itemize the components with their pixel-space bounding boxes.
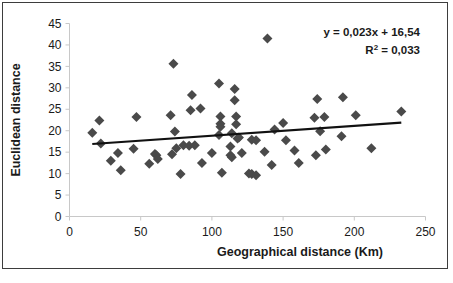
data-point-marker — [294, 158, 304, 168]
data-point-marker — [230, 95, 240, 105]
y-tick-label: 45 — [48, 17, 62, 31]
y-tick-label: 10 — [48, 167, 62, 181]
data-point-marker — [144, 159, 154, 169]
y-tick-label: 20 — [48, 124, 62, 138]
data-point-marker — [116, 165, 126, 175]
data-point-marker — [190, 140, 200, 150]
x-tick-label: 200 — [344, 225, 364, 239]
data-point-marker — [113, 148, 123, 158]
data-point-marker — [396, 106, 406, 116]
data-point-marker — [312, 94, 322, 104]
data-point-marker — [278, 118, 288, 128]
data-point-marker — [262, 34, 272, 44]
r-squared-label: R2 = 0,033 — [365, 43, 420, 56]
data-points-group — [87, 34, 406, 181]
data-point-marker — [106, 156, 116, 166]
data-point-marker — [129, 144, 139, 154]
data-point-marker — [351, 110, 361, 120]
data-point-marker — [197, 158, 207, 168]
data-point-marker — [196, 103, 206, 113]
x-tick-label: 250 — [415, 225, 435, 239]
data-point-marker — [289, 145, 299, 155]
data-point-marker — [338, 92, 348, 102]
y-tick-label: 30 — [48, 81, 62, 95]
data-point-marker — [207, 148, 217, 158]
y-tick-label: 35 — [48, 60, 62, 74]
y-tick-label: 25 — [48, 102, 62, 116]
data-point-marker — [319, 112, 329, 122]
y-tick-label: 5 — [55, 188, 62, 202]
data-point-marker — [131, 112, 141, 122]
data-point-marker — [281, 135, 291, 145]
data-point-marker — [214, 79, 224, 89]
regression-equation-label: y = 0,023x + 16,54 — [323, 26, 420, 38]
y-tick-label: 40 — [48, 38, 62, 52]
data-point-marker — [231, 119, 241, 129]
data-point-marker — [176, 169, 186, 179]
data-point-marker — [321, 145, 331, 155]
data-point-marker — [366, 143, 376, 153]
scatter-chart: 051015202530354045050100150200250Euclide… — [0, 0, 453, 283]
x-axis-title: Geographical distance (Km) — [217, 245, 383, 259]
data-point-marker — [270, 124, 280, 134]
y-tick-label: 15 — [48, 145, 62, 159]
trendline — [92, 123, 401, 144]
r-squared-value: = 0,033 — [378, 44, 420, 56]
data-point-marker — [230, 84, 240, 94]
data-point-marker — [168, 59, 178, 69]
y-axis-title: Euclidean distance — [9, 63, 23, 176]
data-point-marker — [166, 110, 176, 120]
x-tick-label: 50 — [134, 225, 148, 239]
data-point-marker — [187, 90, 197, 100]
data-point-marker — [186, 105, 196, 115]
data-point-marker — [170, 127, 180, 137]
data-point-marker — [267, 160, 277, 170]
data-point-marker — [336, 131, 346, 141]
data-point-marker — [217, 168, 227, 178]
data-point-marker — [311, 150, 321, 160]
data-point-marker — [260, 147, 270, 157]
data-point-marker — [87, 128, 97, 138]
x-tick-label: 150 — [273, 225, 293, 239]
data-point-marker — [94, 115, 104, 125]
x-tick-label: 0 — [66, 225, 73, 239]
data-point-marker — [309, 113, 319, 123]
chart-screenshot: 051015202530354045050100150200250Euclide… — [0, 0, 453, 283]
y-tick-label: 0 — [55, 210, 62, 224]
x-tick-label: 100 — [202, 225, 222, 239]
data-point-marker — [237, 148, 247, 158]
data-point-marker — [225, 142, 235, 152]
